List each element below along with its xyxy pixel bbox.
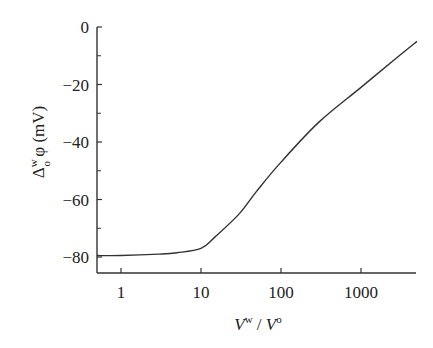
x-tick-label: 10 <box>193 283 210 302</box>
ticks: 0−20−40−60−801101001000 <box>62 18 378 302</box>
svg-text:Δwo φ (mV): Δwo φ (mV) <box>27 106 52 179</box>
y-tick-label: −60 <box>62 191 89 210</box>
x-tick-label: 1000 <box>344 283 378 302</box>
x-label-slash: / <box>253 315 266 334</box>
x-label-w-sup: w <box>245 313 253 325</box>
y-tick-label: −40 <box>62 133 89 152</box>
chart: 0−20−40−60−801101001000 Vw / Vo Δwo φ (m… <box>0 0 433 348</box>
svg-text:Vw / Vo: Vw / Vo <box>234 313 282 334</box>
x-tick-label: 100 <box>268 283 294 302</box>
x-tick-label: 1 <box>117 283 126 302</box>
x-label-o-sup: o <box>276 313 282 325</box>
data-curve <box>97 41 417 255</box>
axes <box>97 27 416 273</box>
series-line <box>97 41 417 255</box>
y-tick-label: −20 <box>62 76 89 95</box>
y-label-delta: Δ <box>29 167 48 178</box>
y-label-rest: φ (mV) <box>29 106 48 161</box>
y-tick-label: 0 <box>81 18 90 37</box>
x-axis-label: Vw / Vo <box>234 313 282 334</box>
y-axis-label: Δwo φ (mV) <box>27 106 52 179</box>
y-tick-label: −80 <box>62 248 89 267</box>
